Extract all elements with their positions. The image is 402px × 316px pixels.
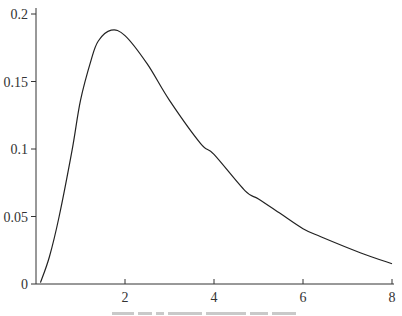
- x-tick-label: 6: [300, 290, 307, 305]
- figure-caption-cut-off: [112, 309, 302, 315]
- x-tick-label: 2: [122, 290, 129, 305]
- x-axis: 2468: [36, 279, 396, 305]
- x-tick-label: 8: [389, 290, 396, 305]
- y-tick-label: 0: [21, 277, 28, 292]
- x-tick-label: 4: [211, 290, 218, 305]
- y-tick-label: 0.05: [4, 210, 29, 225]
- y-tick-label: 0.2: [11, 7, 29, 22]
- y-tick-label: 0.1: [11, 142, 29, 157]
- y-axis: 00.050.10.150.2: [4, 7, 37, 292]
- density-chart: 00.050.10.150.2 2468: [0, 0, 402, 316]
- density-curve: [40, 30, 392, 283]
- y-tick-label: 0.15: [4, 75, 29, 90]
